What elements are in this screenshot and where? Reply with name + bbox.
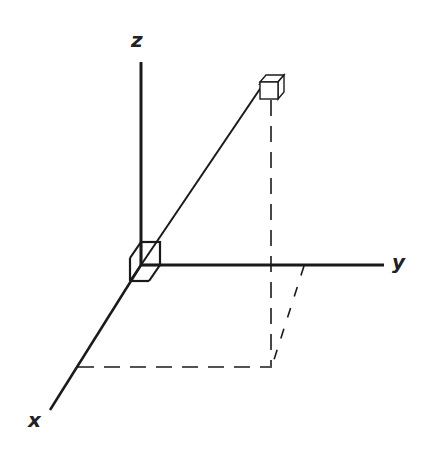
origin-cube: [130, 242, 160, 281]
x-axis-label: x: [28, 410, 41, 430]
x-parallel-projection-line: [272, 266, 304, 366]
position-vector-arrow: [141, 80, 266, 265]
coordinate-diagram: z y x: [0, 0, 422, 451]
projection-lines: [78, 100, 304, 367]
z-axis-label: z: [131, 30, 143, 50]
x-axis: [50, 265, 141, 410]
target-cube: [260, 75, 284, 99]
y-axis-label: y: [392, 252, 405, 272]
axes-canvas: [0, 0, 422, 451]
